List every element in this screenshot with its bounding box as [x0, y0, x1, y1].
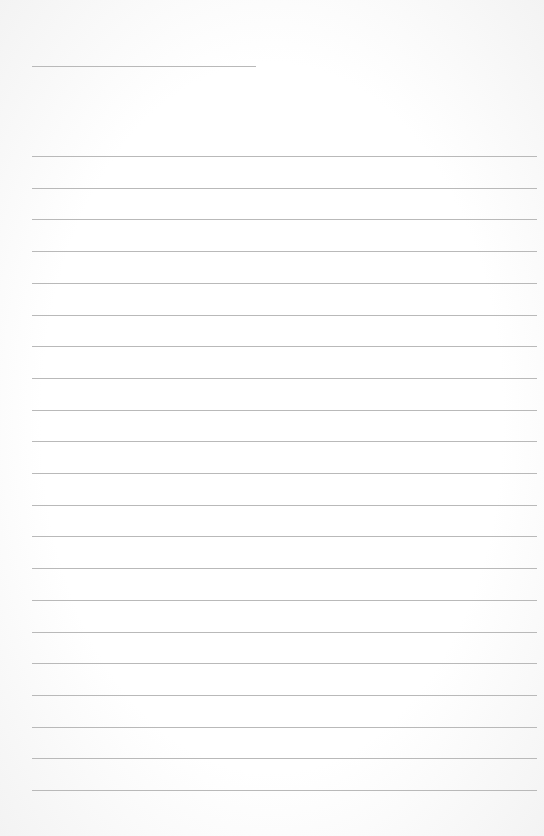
ruled-line [32, 410, 537, 411]
ruled-line [32, 283, 537, 284]
ruled-line [32, 536, 537, 537]
ruled-line [32, 568, 537, 569]
ruled-line [32, 219, 537, 220]
ruled-line [32, 441, 537, 442]
ruled-line [32, 695, 537, 696]
ruled-line [32, 315, 537, 316]
ruled-line [32, 600, 537, 601]
ruled-line [32, 188, 537, 189]
ruled-line [32, 663, 537, 664]
ruled-line [32, 632, 537, 633]
ruled-line [32, 251, 537, 252]
ruled-line [32, 727, 537, 728]
ruled-line [32, 758, 537, 759]
ruled-line [32, 790, 537, 791]
ruled-line [32, 473, 537, 474]
name-line [32, 66, 256, 67]
lined-paper-page [0, 0, 544, 836]
ruled-line [32, 156, 537, 157]
ruled-line [32, 346, 537, 347]
ruled-line [32, 378, 537, 379]
ruled-line [32, 505, 537, 506]
